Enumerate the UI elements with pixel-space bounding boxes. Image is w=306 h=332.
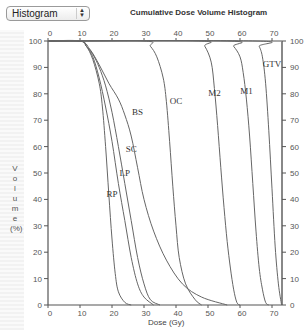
y-tick-label-right: 70 (290, 116, 299, 125)
y-tick-label-right: 50 (290, 169, 299, 178)
x-tick-label: 10 (78, 309, 87, 318)
y-tick-label-right: 30 (290, 222, 299, 231)
x-tick-label-top: 20 (110, 29, 119, 38)
curve-sc (48, 41, 160, 305)
curve-label-oc: OC (170, 96, 183, 106)
y-tick-label-right: 60 (290, 143, 299, 152)
y-tick-label-right: 40 (290, 195, 299, 204)
y-tick-label: 60 (33, 143, 42, 152)
y-tick-label: 100 (29, 37, 43, 46)
y-tick-label-right: 80 (290, 90, 299, 99)
x-tick-label: 30 (142, 309, 151, 318)
y-tick-label-right: 10 (290, 275, 299, 284)
x-tick-label-top: 40 (174, 29, 183, 38)
x-tick-label-top: 70 (270, 29, 279, 38)
y-tick-label: 90 (33, 63, 42, 72)
x-axis-label: Dose (Gy) (148, 318, 184, 327)
curve-bs (48, 40, 227, 305)
y-tick-label: 30 (33, 222, 42, 231)
x-tick-label-top: 60 (238, 29, 247, 38)
curve-label-bs: BS (132, 107, 143, 117)
x-tick-label-top: 10 (78, 29, 87, 38)
curve-label-lp: LP (120, 168, 131, 178)
curve-m1 (48, 41, 269, 305)
y-tick-label-right: 0 (290, 301, 295, 310)
y-tick-label: 80 (33, 90, 42, 99)
curve-label-m2: M2 (208, 88, 221, 98)
curve-lp (48, 41, 154, 305)
x-tick-label-top: 0 (48, 29, 53, 38)
x-tick-label-top: 30 (142, 29, 151, 38)
x-tick-label: 40 (174, 309, 183, 318)
x-tick-label: 70 (270, 309, 279, 318)
dvh-chart: 0010102020303040405050606070708080909010… (0, 0, 306, 332)
x-tick-label-top: 50 (206, 29, 215, 38)
y-tick-label: 70 (33, 116, 42, 125)
x-tick-label: 60 (238, 309, 247, 318)
x-tick-label: 0 (48, 309, 53, 318)
curve-label-m1: M1 (240, 86, 253, 96)
curve-gtv (48, 41, 282, 305)
y-tick-label-right: 20 (290, 248, 299, 257)
x-tick-label: 50 (206, 309, 215, 318)
y-tick-label-right: 100 (290, 37, 304, 46)
y-tick-label: 10 (33, 275, 42, 284)
y-axis-label: Volume(%) (10, 164, 20, 234)
curve-label-gtv: GTV (263, 59, 282, 69)
curve-label-rp: RP (106, 189, 117, 199)
y-tick-label: 50 (33, 169, 42, 178)
curve-m2 (48, 41, 240, 305)
y-tick-label: 20 (33, 248, 42, 257)
y-tick-label: 0 (38, 301, 43, 310)
x-tick-label: 20 (110, 309, 119, 318)
y-tick-label: 40 (33, 195, 42, 204)
y-tick-label-right: 90 (290, 63, 299, 72)
